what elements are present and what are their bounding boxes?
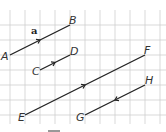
point-label-g: G <box>76 112 85 123</box>
point-label-c: C <box>32 66 40 77</box>
point-label-b: B <box>69 15 77 26</box>
vector-grid-diagram: A B a C D E F G H <box>0 0 166 132</box>
vector-label-a: a <box>31 26 37 36</box>
point-label-h: H <box>145 75 153 86</box>
point-label-a-start: A <box>1 51 9 62</box>
point-label-f: F <box>144 45 150 56</box>
point-label-e: E <box>18 112 25 123</box>
point-label-d: D <box>70 46 78 57</box>
